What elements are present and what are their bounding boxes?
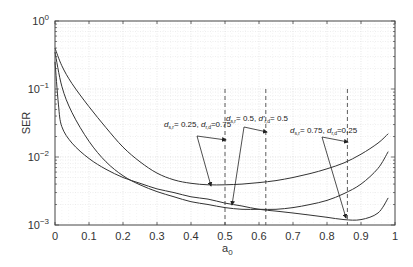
svg-text:ds,r= 0.25, dr,d=0.75: ds,r= 0.25, dr,d=0.75 [164,120,232,130]
x-tick-label: 0.6 [251,230,266,242]
y-tick-label: 10−1 [28,81,50,95]
x-tick-label: 0.3 [149,230,164,242]
x-tick-label: 0.1 [81,230,96,242]
arrow-to-d025-marker [197,136,226,140]
x-tick-label: 1 [392,230,398,242]
svg-text:ds,r= 0.75, dr,d=0.25: ds,r= 0.75, dr,d=0.25 [290,126,358,136]
x-tick-label: 0.7 [285,230,300,242]
arrow-to-d05-marker [244,127,267,132]
annotation-d025: ds,r= 0.25, dr,d=0.75 [164,120,232,130]
ser-chart: 00.10.20.30.40.50.60.70.80.91 10−310−210… [0,0,413,267]
arrow-to-d05-min [232,127,244,205]
y-tick-label: 10−2 [28,149,50,163]
y-tick-label: 10−3 [28,217,50,231]
x-tick-label: 0.9 [353,230,368,242]
svg-text:ds,r= 0.5, d'r,d= 0.5: ds,r= 0.5, d'r,d= 0.5 [226,114,289,124]
y-axis-label: SER [20,112,32,135]
x-tick-label: 0.2 [115,230,130,242]
arrow-to-d075-marker [322,137,348,142]
y-tick-label: 100 [32,13,49,27]
annotation-d05: ds,r= 0.5, d'r,d= 0.5 [226,114,289,124]
x-tick-labels: 00.10.20.30.40.50.60.70.80.91 [52,230,398,242]
x-axis-label: a0 [222,242,233,257]
annotation-d075: ds,r= 0.75, dr,d=0.25 [290,126,358,136]
arrow-to-d025-min [197,136,211,186]
x-tick-label: 0.4 [183,230,198,242]
x-tick-label: 0.8 [319,230,334,242]
x-tick-label: 0 [52,230,58,242]
x-tick-label: 0.5 [217,230,232,242]
